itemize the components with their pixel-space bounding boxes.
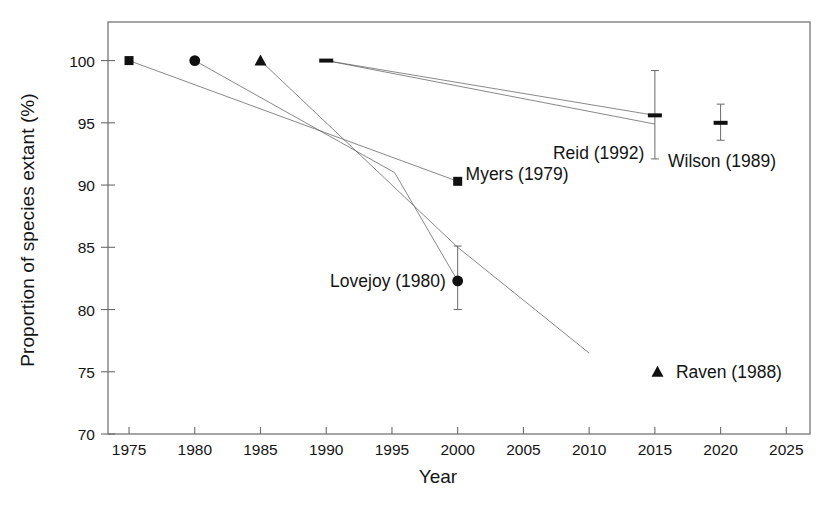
x-tick-label-2025: 2025 bbox=[769, 441, 803, 458]
y-tick-label-75: 75 bbox=[78, 364, 95, 381]
y-tick-label-85: 85 bbox=[78, 239, 95, 256]
data-point-reid-1992-1 bbox=[648, 113, 662, 117]
series-label-reid-1992: Reid (1992) bbox=[553, 143, 644, 163]
x-tick-label-2010: 2010 bbox=[572, 441, 607, 458]
series-label-raven-1988: Raven (1988) bbox=[676, 362, 782, 382]
x-tick-label-2020: 2020 bbox=[703, 441, 738, 458]
plot-area: 1975198019851990199520002005201020152020… bbox=[0, 0, 840, 505]
y-tick-label-80: 80 bbox=[78, 302, 96, 319]
series-line-lovejoy-1980 bbox=[195, 61, 458, 281]
series-label-myers-1979: Myers (1979) bbox=[466, 164, 569, 184]
x-axis-title-container: Year bbox=[0, 466, 840, 488]
x-axis-title: Year bbox=[419, 466, 457, 487]
data-point-myers-1979-0 bbox=[125, 56, 134, 65]
data-point-reid-1992-0 bbox=[319, 59, 333, 63]
y-tick-label-70: 70 bbox=[78, 426, 96, 443]
x-tick-label-1980: 1980 bbox=[178, 441, 213, 458]
data-point-lovejoy-1980-1 bbox=[452, 276, 463, 287]
data-point-raven-1988-0 bbox=[254, 55, 266, 66]
x-tick-label-1995: 1995 bbox=[375, 441, 409, 458]
series-line2-reid-1992 bbox=[326, 61, 655, 124]
x-tick-label-2005: 2005 bbox=[506, 441, 540, 458]
legend-marker-raven-1988 bbox=[652, 366, 664, 377]
y-tick-label-90: 90 bbox=[78, 177, 96, 194]
x-tick-label-1990: 1990 bbox=[309, 441, 344, 458]
x-tick-label-2000: 2000 bbox=[440, 441, 475, 458]
series-line-myers-1979 bbox=[129, 61, 458, 182]
y-tick-label-95: 95 bbox=[78, 115, 95, 132]
y-tick-label-100: 100 bbox=[69, 53, 95, 70]
x-tick-label-1975: 1975 bbox=[112, 441, 146, 458]
series-label-wilson-1989: Wilson (1989) bbox=[668, 151, 776, 171]
data-point-wilson-1989-0 bbox=[714, 121, 728, 125]
data-point-lovejoy-1980-0 bbox=[189, 55, 200, 66]
x-tick-label-1985: 1985 bbox=[243, 441, 277, 458]
series-label-lovejoy-1980: Lovejoy (1980) bbox=[330, 271, 446, 291]
series-line-reid-1992 bbox=[326, 61, 655, 116]
series-line-raven-1988 bbox=[260, 61, 589, 354]
x-tick-label-2015: 2015 bbox=[638, 441, 672, 458]
extinction-projection-chart: Proportion of species extant (%) Year 19… bbox=[0, 0, 840, 505]
data-point-myers-1979-1 bbox=[453, 177, 462, 186]
